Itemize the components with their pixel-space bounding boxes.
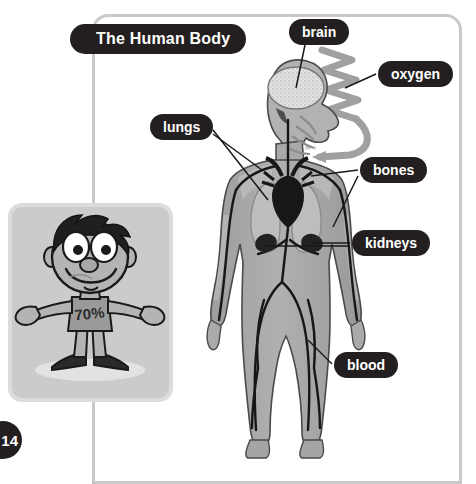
label-lungs-text: lungs [163,119,200,135]
label-kidneys[interactable]: kidneys [352,230,430,256]
label-oxygen-text: oxygen [391,66,440,82]
label-brain[interactable]: brain [289,19,349,45]
label-lungs[interactable]: lungs [150,114,213,140]
label-bones-text: bones [373,162,414,178]
page-title: The Human Body [70,24,246,54]
label-blood[interactable]: blood [334,352,398,378]
page-number-text: 14 [1,432,18,449]
page-title-text: The Human Body [96,30,230,48]
label-blood-text: blood [347,357,385,373]
label-oxygen[interactable]: oxygen [378,61,453,87]
label-kidneys-text: kidneys [365,235,417,251]
label-brain-text: brain [302,24,336,40]
label-bones[interactable]: bones [360,157,427,183]
